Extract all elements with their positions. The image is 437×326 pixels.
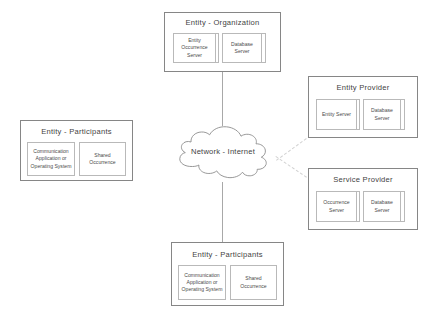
server-database-server[interactable]: Database Server	[363, 191, 401, 222]
node-title-entity-participants-left: Entity - Participants	[21, 127, 132, 136]
node-title-entity-provider: Entity Provider	[309, 83, 417, 92]
server-stack-edge	[401, 99, 405, 130]
server-database-server[interactable]: Database Server	[363, 99, 401, 130]
server-entity-server[interactable]: Entity Server	[316, 99, 357, 130]
server-label: Shared Occurrence	[82, 152, 123, 166]
server-label: Communication Application or Operating S…	[30, 148, 72, 170]
server-group-entity-organization: Entity Occurrence Server Database Server	[173, 33, 272, 63]
server-stack-edge	[401, 191, 405, 222]
node-title-entity-participants-bottom: Entity - Participants	[172, 250, 283, 259]
connector-network-to-participants-bottom	[222, 182, 223, 242]
network-cloud-label: Network - Internet	[168, 147, 278, 156]
server-label: Communication Application or Operating S…	[181, 272, 223, 294]
server-group-entity-participants-bottom: Communication Application or Operating S…	[178, 265, 277, 300]
server-label: Database Server	[366, 199, 398, 213]
server-group-entity-provider: Entity Server Database Server	[316, 99, 410, 130]
server-stack-edge	[262, 33, 266, 63]
network-cloud[interactable]: Network - Internet	[168, 122, 278, 182]
server-group-entity-participants-left: Communication Application or Operating S…	[27, 142, 126, 176]
server-communication-application-or-operating-system[interactable]: Communication Application or Operating S…	[178, 265, 226, 300]
server-label: Database Server	[225, 41, 259, 55]
server-communication-application-or-operating-system[interactable]: Communication Application or Operating S…	[27, 142, 75, 176]
server-occurrence-server[interactable]: Occurrence Server	[316, 191, 357, 222]
node-service-provider[interactable]: Service Provider Occurrence Server Datab…	[308, 168, 418, 230]
server-shared-occurrence[interactable]: Shared Occurrence	[79, 142, 126, 176]
server-group-service-provider: Occurrence Server Database Server	[316, 191, 410, 222]
node-entity-participants-bottom[interactable]: Entity - Participants Communication Appl…	[171, 242, 284, 306]
server-shared-occurrence[interactable]: Shared Occurrence	[230, 265, 277, 300]
node-entity-provider[interactable]: Entity Provider Entity Server Database S…	[308, 76, 418, 138]
server-entity-occurrence-server[interactable]: Entity Occurrence Server	[173, 33, 216, 63]
server-label: Database Server	[366, 107, 398, 121]
node-entity-organization[interactable]: Entity - Organization Entity Occurrence …	[164, 12, 281, 72]
server-label: Entity Occurrence Server	[176, 37, 213, 59]
node-title-entity-organization: Entity - Organization	[165, 18, 280, 27]
connector-organization-to-network	[222, 72, 223, 126]
server-label: Shared Occurrence	[233, 275, 274, 289]
node-entity-participants-left[interactable]: Entity - Participants Communication Appl…	[20, 120, 133, 181]
server-label: Occurrence Server	[319, 199, 354, 213]
server-label: Entity Server	[322, 111, 351, 118]
server-database-server[interactable]: Database Server	[222, 33, 262, 63]
diagram-canvas: Entity - Organization Entity Occurrence …	[0, 0, 437, 326]
node-title-service-provider: Service Provider	[309, 175, 417, 184]
